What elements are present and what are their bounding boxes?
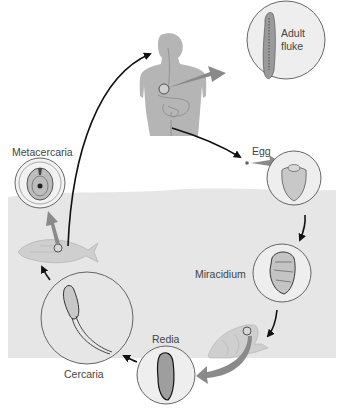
liver-highlight-icon <box>159 84 169 94</box>
egg-circle <box>267 151 321 205</box>
cercaria-circle <box>41 272 133 364</box>
human-host <box>140 33 207 136</box>
redia-circle <box>137 346 195 404</box>
label-redia: Redia <box>152 333 179 345</box>
fluke-life-cycle-diagram: Adult fluke Egg Metacercaria Miracidium … <box>0 0 343 408</box>
label-egg: Egg <box>252 145 271 157</box>
label-miracidium: Miracidium <box>195 268 246 280</box>
egg-dot-icon <box>245 161 249 165</box>
fish-highlight-icon <box>54 244 62 252</box>
metacercaria-circle <box>15 158 65 208</box>
diagram-canvas <box>0 0 343 408</box>
label-cercaria: Cercaria <box>64 368 104 380</box>
miracidium-circle <box>253 244 311 302</box>
label-adult-fluke: Adult fluke <box>281 27 315 53</box>
snail-highlight-icon <box>243 327 251 335</box>
label-metacercaria: Metacercaria <box>12 146 73 158</box>
